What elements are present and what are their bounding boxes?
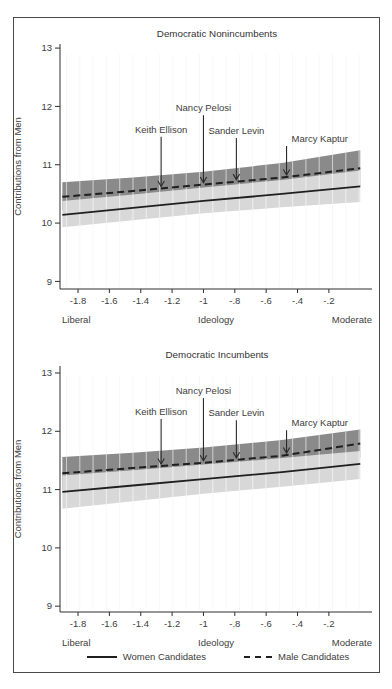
y-axis-title: Contributions from Men [12, 117, 23, 216]
y-tick-label: 11 [42, 159, 52, 170]
x-tick-label: -1.4 [133, 295, 149, 306]
y-tick-label: 13 [41, 367, 52, 378]
y-tick-label: 13 [41, 42, 52, 53]
y-tick-label: 11 [42, 484, 52, 495]
x-tick-label: -1.2 [164, 295, 180, 306]
annotation-label: Marcy Kaptur [292, 417, 349, 428]
x-tick-label: -1 [199, 618, 207, 629]
x-axis-left-label: Liberal [62, 637, 91, 648]
legend-item-women: Women Candidates [87, 651, 206, 662]
x-tick-label: -.8 [229, 295, 240, 306]
x-axis-right-label: Moderate [332, 637, 372, 648]
panel-title: Democratic Nonincumbents [157, 28, 277, 39]
x-tick-label: -1.8 [70, 618, 86, 629]
annotation-label: Keith Ellison [135, 406, 187, 417]
x-tick-label: -.8 [229, 618, 240, 629]
legend: Women Candidates Male Candidates [48, 651, 388, 662]
x-axis-left-label: Liberal [62, 314, 91, 325]
x-tick-label: -.4 [292, 295, 303, 306]
y-tick-label: 10 [41, 217, 52, 228]
x-axis-title: Ideology [198, 314, 234, 325]
x-tick-label: -1.6 [101, 618, 117, 629]
y-tick-label: 10 [41, 542, 52, 553]
legend-label-male: Male Candidates [278, 651, 349, 662]
annotation-label: Sander Levin [208, 407, 264, 418]
x-tick-label: -1.2 [164, 618, 180, 629]
panel-title: Democratic Incumbents [166, 349, 269, 360]
legend-label-women: Women Candidates [123, 651, 206, 662]
x-tick-label: -1.4 [133, 618, 149, 629]
annotation-label: Nancy Pelosi [176, 102, 231, 113]
annotation-label: Nancy Pelosi [176, 385, 231, 396]
contributions-by-ideology-chart: 910111213-1.8-1.6-1.4-1.2-1-.8-.6-.4-.2C… [0, 0, 392, 689]
y-tick-label: 12 [41, 101, 52, 112]
x-tick-label: -.4 [292, 618, 303, 629]
x-tick-label: -1.8 [70, 295, 86, 306]
y-tick-label: 9 [47, 600, 52, 611]
x-tick-label: -.6 [261, 295, 272, 306]
y-tick-label: 9 [47, 276, 52, 287]
x-tick-label: -.2 [323, 295, 334, 306]
x-tick-label: -1.6 [101, 295, 117, 306]
annotation-label: Marcy Kaptur [292, 133, 349, 144]
annotation-label: Sander Levin [208, 125, 264, 136]
x-tick-label: -1 [199, 295, 207, 306]
y-axis-title: Contributions from Men [12, 440, 23, 539]
annotation-label: Keith Ellison [135, 124, 187, 135]
legend-item-male: Male Candidates [244, 651, 349, 662]
x-axis-right-label: Moderate [332, 314, 372, 325]
x-axis-title: Ideology [198, 637, 234, 648]
y-tick-label: 12 [41, 425, 52, 436]
dashed-line-key-icon [244, 656, 272, 658]
x-tick-label: -.2 [323, 618, 334, 629]
figure-canvas: 910111213-1.8-1.6-1.4-1.2-1-.8-.6-.4-.2C… [0, 0, 392, 689]
solid-line-key-icon [87, 656, 117, 658]
x-tick-label: -.6 [261, 618, 272, 629]
